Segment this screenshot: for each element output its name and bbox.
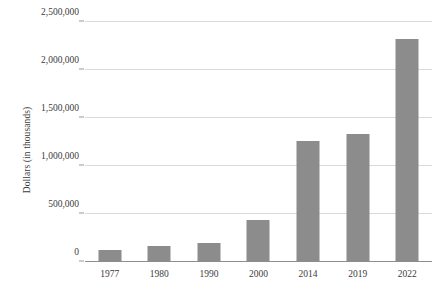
y-tick-mark bbox=[79, 117, 84, 118]
y-tick-label: 500,000 bbox=[48, 199, 79, 209]
bar bbox=[297, 141, 320, 262]
y-tick-label: 1,000,000 bbox=[41, 151, 79, 161]
bar-group: 2019 bbox=[333, 22, 383, 262]
x-tick-label: 2022 bbox=[398, 269, 417, 279]
y-tick-mark bbox=[79, 213, 84, 214]
x-tick-label: 1977 bbox=[100, 269, 119, 279]
bar bbox=[247, 220, 270, 262]
bar bbox=[346, 134, 369, 262]
bar-group: 2000 bbox=[234, 22, 284, 262]
bar bbox=[197, 243, 220, 262]
bar bbox=[98, 250, 121, 262]
plot-area: 0500,0001,000,0001,500,0002,000,0002,500… bbox=[85, 22, 432, 262]
bar-chart: Dollars (in thousands) 0500,0001,000,000… bbox=[0, 0, 432, 300]
bar-group: 1990 bbox=[184, 22, 234, 262]
bar-group: 2014 bbox=[283, 22, 333, 262]
x-tick-label: 2019 bbox=[348, 269, 367, 279]
y-tick-label: 2,000,000 bbox=[41, 55, 79, 65]
y-tick-mark bbox=[79, 69, 84, 70]
bar-series: 1977198019902000201420192022 bbox=[85, 22, 432, 262]
bar-group: 1980 bbox=[135, 22, 185, 262]
x-tick-label: 1980 bbox=[150, 269, 169, 279]
y-tick-mark bbox=[79, 165, 84, 166]
y-tick-label: 2,500,000 bbox=[41, 7, 79, 17]
bar-group: 2022 bbox=[382, 22, 432, 262]
y-tick-mark bbox=[79, 21, 84, 22]
bar-group: 1977 bbox=[85, 22, 135, 262]
x-tick-label: 1990 bbox=[199, 269, 218, 279]
y-tick-label: 1,500,000 bbox=[41, 103, 79, 113]
y-tick-label: 0 bbox=[74, 247, 79, 257]
x-tick-label: 2014 bbox=[299, 269, 318, 279]
bar bbox=[148, 246, 171, 262]
y-tick-mark bbox=[79, 261, 84, 262]
bar bbox=[396, 39, 419, 262]
x-tick-label: 2000 bbox=[249, 269, 268, 279]
y-axis-title: Dollars (in thousands) bbox=[14, 0, 40, 300]
